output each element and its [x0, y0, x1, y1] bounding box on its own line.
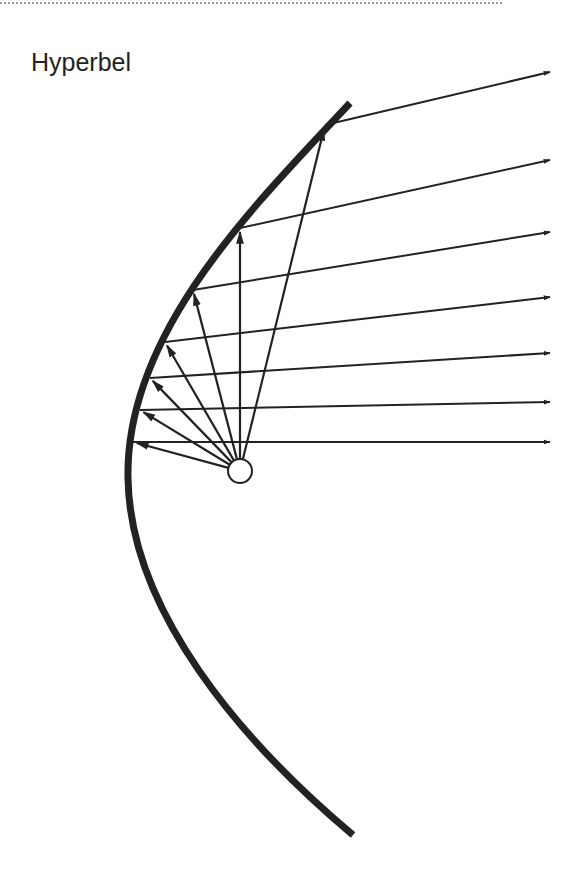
reflected-ray-3	[193, 232, 550, 290]
focus-point	[228, 459, 252, 483]
focus-ray-4	[167, 345, 234, 460]
reflected-ray-4	[165, 297, 550, 342]
reflected-ray-1	[325, 72, 550, 125]
hyperbola-reflection-diagram	[0, 0, 575, 885]
focus-rays	[137, 129, 324, 468]
focus-ray-3	[194, 294, 237, 460]
reflected-rays	[133, 72, 550, 442]
